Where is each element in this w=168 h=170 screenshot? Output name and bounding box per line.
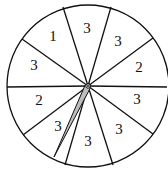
- sector-label: 1: [49, 28, 57, 44]
- sector-label: 3: [83, 20, 91, 36]
- sector-label: 3: [30, 57, 38, 73]
- spinner-diagram: 3323333231: [0, 0, 168, 170]
- sector-label: 3: [114, 33, 122, 49]
- sector-label: 2: [135, 59, 143, 75]
- sector-label: 3: [133, 91, 141, 107]
- sector-label: 3: [54, 118, 62, 134]
- sector-label: 2: [35, 92, 43, 108]
- sector-label: 3: [84, 133, 92, 149]
- sector-label: 3: [115, 121, 123, 137]
- pivot-dot: [87, 85, 89, 87]
